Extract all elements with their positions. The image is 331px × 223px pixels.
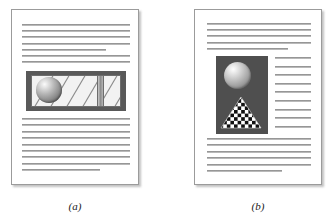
text-line <box>207 23 311 25</box>
document-page-b <box>194 9 322 185</box>
page-a-content <box>12 10 138 184</box>
text-line <box>207 29 311 31</box>
text-line <box>275 109 311 111</box>
text-line <box>22 55 130 57</box>
text-line <box>207 164 311 166</box>
text-line <box>22 30 130 32</box>
sphere-graphic-a <box>36 77 62 103</box>
checkerboard-triangle-icon <box>216 56 268 134</box>
text-line <box>207 170 282 172</box>
page-b-content <box>195 10 321 184</box>
text-line <box>22 169 100 171</box>
text-line <box>275 117 311 119</box>
text-block-b-top <box>207 23 311 54</box>
text-line <box>275 126 311 128</box>
text-line <box>22 150 130 152</box>
caption-a: (a) <box>55 200 95 212</box>
text-line <box>22 24 130 26</box>
text-line <box>22 163 130 165</box>
illustration-a-canvas <box>31 75 121 107</box>
text-line <box>22 61 130 63</box>
text-line <box>22 137 130 139</box>
figure-root: (a) <box>0 0 331 223</box>
text-line <box>207 151 311 153</box>
text-line <box>275 74 311 76</box>
text-line <box>22 156 130 158</box>
text-line <box>22 144 130 146</box>
caption-b: (b) <box>238 200 278 212</box>
text-line <box>275 66 311 68</box>
text-line <box>207 42 311 44</box>
text-block-b-bottom <box>207 138 311 176</box>
text-block-b-wrapped <box>275 57 311 134</box>
text-line <box>207 144 311 146</box>
text-block-a-top <box>22 24 130 67</box>
text-line <box>22 49 106 51</box>
text-line <box>22 36 130 38</box>
text-line <box>275 100 311 102</box>
text-line <box>22 131 130 133</box>
illustration-b-photo-block <box>216 56 268 134</box>
text-line <box>275 91 311 93</box>
text-line <box>22 124 130 126</box>
text-line <box>207 35 311 37</box>
text-line <box>207 138 311 140</box>
document-page-a <box>11 9 139 185</box>
vertical-bar-divider <box>97 76 104 106</box>
text-line <box>22 43 130 45</box>
text-line <box>22 118 130 120</box>
illustration-a-banner <box>26 71 126 111</box>
text-block-a-bottom <box>22 118 130 176</box>
text-line <box>207 157 311 159</box>
text-line <box>275 83 311 85</box>
text-line <box>207 48 288 50</box>
text-line <box>275 57 311 59</box>
